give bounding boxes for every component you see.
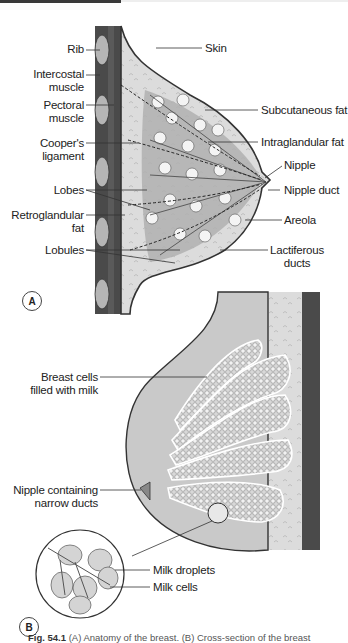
label-nipple: Nipple: [284, 159, 315, 172]
label-nipple-duct: Nipple duct: [284, 184, 339, 197]
label-intraglandular-fat: Intraglandular fat: [261, 136, 344, 149]
figure-caption-text: (A) Anatomy of the breast. (B) Cross-sec…: [69, 632, 311, 643]
panel-a-drawing: [95, 26, 270, 314]
label-rib: Rib: [40, 43, 84, 56]
label-nipple-containing-narrow-ducts: Nipple containing narrow ducts: [0, 484, 98, 510]
figure-number: Fig. 54.1: [28, 632, 66, 643]
label-areola: Areola: [284, 214, 316, 227]
label-lactiferous-ducts: Lactiferous ducts: [270, 244, 324, 270]
label-pectoral-muscle: Pectoral muscle: [20, 99, 84, 125]
label-milk-cells: Milk cells: [153, 581, 198, 594]
label-retroglandular-fat: Retroglandular fat: [4, 209, 84, 235]
label-lobes: Lobes: [20, 184, 84, 197]
label-skin: Skin: [205, 42, 227, 55]
label-milk-droplets: Milk droplets: [153, 564, 215, 577]
label-breast-cells-filled-with-milk: Breast cells filled with milk: [10, 371, 98, 397]
figure-caption: Fig. 54.1 (A) Anatomy of the breast. (B)…: [28, 632, 310, 643]
label-lobules: Lobules: [20, 244, 84, 257]
label-intercostal-muscle: Intercostal muscle: [20, 68, 84, 94]
label-subcutaneous-fat: Subcutaneous fat: [261, 104, 347, 117]
label-coopers-ligament: Cooper's ligament: [20, 137, 84, 163]
panel-a-badge: A: [22, 291, 42, 311]
